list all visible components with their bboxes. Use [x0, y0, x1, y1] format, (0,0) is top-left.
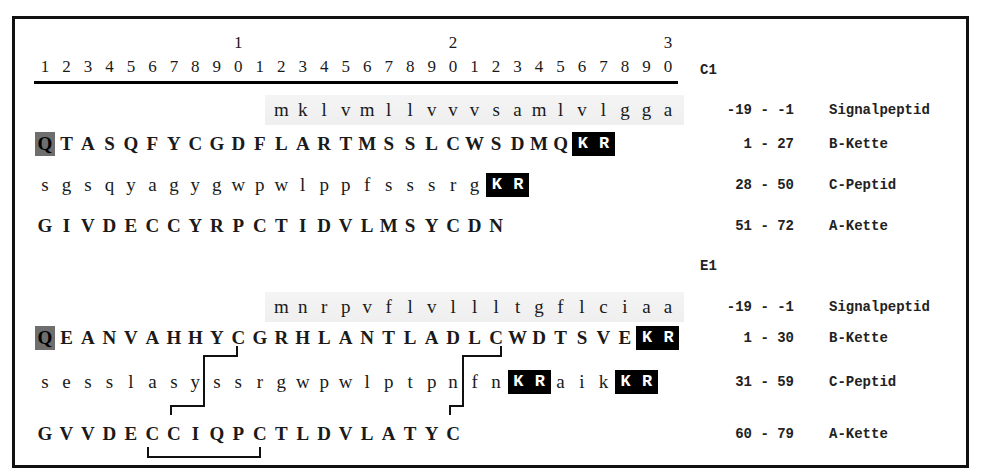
residue: g — [465, 173, 485, 197]
cleavage-site-residue: K — [508, 370, 530, 394]
ruler-unit-label: 7 — [379, 57, 399, 77]
residue: C — [250, 422, 270, 446]
residue: s — [486, 98, 506, 122]
residue: C — [228, 326, 248, 350]
residue: m — [529, 98, 549, 122]
residue: i — [615, 295, 635, 319]
residue: a — [658, 295, 678, 319]
residue: C — [486, 326, 506, 350]
residue: r — [443, 173, 463, 197]
residue: i — [572, 370, 592, 394]
residue: L — [293, 422, 313, 446]
residue: S — [400, 132, 420, 156]
residue: P — [228, 422, 248, 446]
ruler-unit-label: 7 — [593, 57, 613, 77]
ruler-unit-label: 8 — [400, 57, 420, 77]
residue-range: 1 - 27 — [684, 136, 794, 152]
residue: a — [658, 98, 678, 122]
segment-label: A-Kette — [829, 426, 888, 442]
residue: l — [400, 98, 420, 122]
ruler-tens-label: 1 — [228, 33, 248, 53]
ruler-unit-label: 3 — [508, 57, 528, 77]
residue: c — [593, 295, 613, 319]
residue-range: -19 - -1 — [684, 299, 794, 315]
residue: l — [486, 295, 506, 319]
residue: f — [465, 370, 485, 394]
residue: I — [56, 214, 76, 238]
residue: A — [379, 422, 399, 446]
disulfide-bridge-line — [203, 355, 238, 357]
residue: A — [142, 326, 162, 350]
residue: D — [228, 132, 248, 156]
ruler-unit-label: 9 — [636, 57, 656, 77]
residue: V — [78, 422, 98, 446]
segment-label: C-Peptid — [829, 177, 896, 193]
residue: v — [465, 98, 485, 122]
disulfide-bridge-line — [203, 355, 205, 407]
residue: L — [357, 214, 377, 238]
residue: q — [99, 173, 119, 197]
residue: M — [529, 132, 549, 156]
residue: R — [271, 326, 291, 350]
residue: L — [271, 132, 291, 156]
residue: Q — [207, 422, 227, 446]
pyroglutamate-residue: Q — [35, 326, 55, 350]
segment-label: Signalpeptid — [829, 102, 930, 118]
residue: s — [35, 173, 55, 197]
residue: w — [271, 173, 291, 197]
residue-range: -19 - -1 — [684, 102, 794, 118]
ruler-unit-label: 1 — [465, 57, 485, 77]
cleavage-site-residue: R — [593, 132, 615, 156]
cleavage-site-residue: K — [636, 326, 658, 350]
residue: l — [357, 370, 377, 394]
residue: p — [336, 295, 356, 319]
disulfide-bridge-line — [449, 405, 464, 407]
disulfide-bridge-line — [259, 447, 261, 458]
residue: s — [99, 370, 119, 394]
residue: a — [636, 295, 656, 319]
residue: Q — [551, 132, 571, 156]
residue: H — [164, 326, 184, 350]
residue: a — [142, 173, 162, 197]
residue: D — [508, 132, 528, 156]
residue: s — [78, 173, 98, 197]
cleavage-site-residue: K — [572, 132, 594, 156]
residue: Y — [422, 422, 442, 446]
residue: C — [185, 132, 205, 156]
residue: N — [99, 326, 119, 350]
residue: G — [35, 214, 55, 238]
disulfide-bridge-line — [449, 405, 451, 415]
residue: Q — [121, 132, 141, 156]
residue: v — [357, 295, 377, 319]
residue: N — [486, 214, 506, 238]
ruler-unit-label: 1 — [250, 57, 270, 77]
residue: v — [443, 98, 463, 122]
residue: D — [99, 214, 119, 238]
residue-range: 60 - 79 — [684, 426, 794, 442]
residue: R — [314, 132, 334, 156]
residue: G — [207, 132, 227, 156]
residue: r — [250, 370, 270, 394]
residue: W — [465, 132, 485, 156]
residue: D — [314, 422, 334, 446]
residue: g — [207, 173, 227, 197]
residue: w — [336, 370, 356, 394]
residue: S — [379, 132, 399, 156]
residue: F — [142, 132, 162, 156]
disulfide-bridge-line — [170, 405, 172, 415]
residue: a — [508, 98, 528, 122]
residue: s — [78, 370, 98, 394]
residue: C — [443, 132, 463, 156]
residue: R — [207, 214, 227, 238]
residue: l — [379, 98, 399, 122]
ruler-underline — [34, 81, 678, 84]
residue: T — [271, 214, 291, 238]
residue: s — [207, 370, 227, 394]
residue: p — [379, 370, 399, 394]
residue: l — [572, 295, 592, 319]
residue: s — [164, 370, 184, 394]
section-label-c1: C1 — [700, 62, 717, 78]
residue: l — [400, 295, 420, 319]
residue: A — [78, 132, 98, 156]
residue: C — [250, 214, 270, 238]
